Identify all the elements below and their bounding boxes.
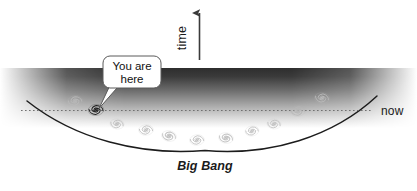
cosmology-diagram: time now [0,0,417,191]
galaxy-6 [189,134,205,146]
diagram-canvas: time now [0,0,417,191]
time-axis-label: time [175,26,189,50]
big-bang-label: Big Bang [177,159,233,173]
time-axis: time [175,13,200,60]
callout-line-1: You are [112,60,151,72]
callout-line-2: here [120,73,143,85]
now-label: now [381,104,404,118]
galaxy-7 [218,132,234,145]
cosmic-background-gradient [0,68,417,128]
galaxy-5 [161,129,177,142]
